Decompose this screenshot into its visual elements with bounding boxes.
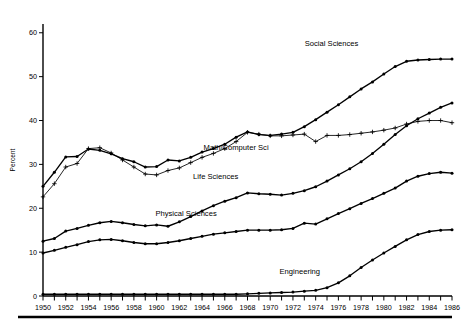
x-tick-label: 1980	[376, 303, 392, 312]
data-point-marker	[394, 65, 397, 68]
data-point-marker	[280, 194, 283, 197]
data-point-marker	[132, 293, 135, 296]
data-point-marker	[201, 293, 204, 296]
x-tick-label: 1958	[126, 303, 142, 312]
data-point-marker	[246, 191, 249, 194]
data-point-marker	[42, 252, 45, 255]
data-point-marker	[98, 238, 101, 241]
data-point-marker	[235, 230, 238, 233]
data-point-marker	[326, 180, 329, 183]
data-point-marker	[154, 173, 158, 177]
data-point-marker	[428, 230, 431, 233]
data-point-marker	[166, 241, 169, 244]
data-point-marker	[132, 241, 135, 244]
data-point-marker	[291, 291, 294, 294]
series-life-sciences	[42, 101, 454, 242]
data-point-marker	[132, 223, 135, 226]
data-point-marker	[359, 131, 363, 135]
data-point-marker	[337, 281, 340, 284]
data-point-marker	[348, 95, 351, 98]
data-point-marker	[200, 155, 204, 159]
data-point-marker	[121, 239, 124, 242]
data-point-marker	[314, 185, 317, 188]
data-point-marker	[326, 286, 329, 289]
x-tick-label: 1952	[58, 303, 74, 312]
data-point-marker	[53, 171, 56, 174]
series-label-physical-sciences: Physical Sciences	[155, 209, 216, 218]
data-point-marker	[155, 165, 158, 168]
series-label-social-sciences: Social Sciences	[305, 39, 359, 48]
data-point-marker	[302, 132, 306, 136]
y-tick-label: 0	[33, 292, 37, 301]
data-point-marker	[326, 111, 329, 114]
data-point-marker	[336, 133, 340, 137]
data-point-marker	[337, 212, 340, 215]
x-tick-label: 1960	[149, 303, 165, 312]
data-point-marker	[405, 180, 408, 183]
y-tick-label: 50	[29, 72, 37, 81]
data-point-marker	[143, 172, 147, 176]
y-tick-label: 20	[29, 204, 37, 213]
y-axis: 0102030405060	[29, 24, 43, 301]
data-point-marker	[360, 202, 363, 205]
data-point-marker	[223, 293, 226, 296]
data-point-marker	[64, 155, 67, 158]
x-tick-label: 1968	[240, 303, 256, 312]
data-point-marker	[121, 293, 124, 296]
data-point-marker	[144, 224, 147, 227]
data-point-marker	[246, 229, 249, 232]
data-point-marker	[42, 185, 45, 188]
series-label-life-sciences: Life Sciences	[193, 172, 238, 181]
data-point-marker	[144, 293, 147, 296]
data-point-marker	[87, 224, 90, 227]
data-point-marker	[291, 227, 294, 230]
data-point-marker	[371, 152, 374, 155]
data-point-marker	[438, 118, 442, 122]
data-point-marker	[360, 266, 363, 269]
data-point-marker	[166, 225, 169, 228]
data-point-marker	[166, 168, 170, 172]
x-tick-label: 1982	[399, 303, 415, 312]
data-point-marker	[201, 235, 204, 238]
data-point-marker	[393, 126, 397, 130]
data-point-marker	[427, 118, 431, 122]
line-chart: 0102030405060 19501952195419561958196019…	[0, 0, 465, 324]
y-tick-label: 10	[29, 248, 37, 257]
data-point-marker	[370, 130, 374, 134]
data-point-marker	[439, 58, 442, 61]
data-point-marker	[121, 221, 124, 224]
x-tick-label: 1984	[421, 303, 437, 312]
data-point-marker	[439, 229, 442, 232]
data-point-marker	[382, 192, 385, 195]
data-point-marker	[235, 136, 238, 139]
series-label-engineering: Engineering	[280, 267, 321, 276]
data-point-marker	[235, 293, 238, 296]
data-point-marker	[360, 160, 363, 163]
data-point-marker	[76, 293, 79, 296]
series-social-sciences	[42, 58, 454, 188]
x-tick-label: 1978	[353, 303, 369, 312]
data-point-marker	[166, 293, 169, 296]
data-point-marker	[394, 245, 397, 248]
data-point-marker	[76, 227, 79, 230]
data-point-marker	[405, 124, 408, 127]
data-point-marker	[280, 228, 283, 231]
data-point-marker	[212, 233, 215, 236]
data-point-marker	[428, 172, 431, 175]
data-point-marker	[314, 223, 317, 226]
data-point-marker	[451, 101, 454, 104]
data-point-marker	[291, 192, 294, 195]
series-layer	[41, 58, 454, 296]
data-point-marker	[87, 293, 90, 296]
data-point-marker	[177, 166, 181, 170]
data-point-marker	[371, 80, 374, 83]
data-point-marker	[371, 259, 374, 262]
data-point-marker	[416, 233, 419, 236]
data-point-marker	[110, 293, 113, 296]
data-point-marker	[416, 117, 419, 120]
data-point-marker	[382, 128, 386, 132]
data-point-marker	[64, 246, 67, 249]
data-point-marker	[314, 289, 317, 292]
data-point-marker	[303, 222, 306, 225]
data-point-marker	[178, 220, 181, 223]
